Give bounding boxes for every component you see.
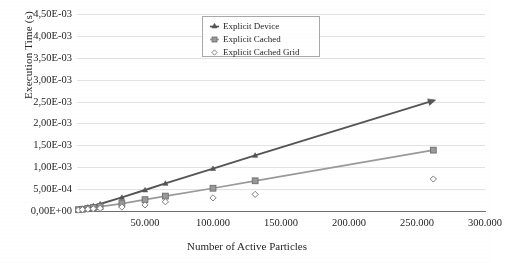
legend-item: Explicit Device bbox=[208, 20, 315, 32]
square-marker-icon bbox=[208, 34, 221, 45]
legend-label: Explicit Cached bbox=[223, 34, 281, 45]
diamond-marker-icon bbox=[208, 47, 221, 58]
chart-legend: Explicit DeviceExplicit CachedExplicit C… bbox=[202, 16, 320, 57]
legend-label: Explicit Device bbox=[223, 21, 279, 32]
arrow-head-icon bbox=[428, 99, 436, 106]
diamond-marker-icon bbox=[162, 199, 168, 205]
triangle-marker-icon bbox=[208, 21, 221, 32]
square-marker-icon bbox=[210, 185, 216, 191]
legend-label: Explicit Cached Grid bbox=[223, 47, 299, 58]
diamond-marker-icon bbox=[210, 195, 216, 201]
diamond-marker-icon bbox=[252, 191, 258, 197]
square-marker-icon bbox=[252, 178, 258, 184]
legend-item: Explicit Cached bbox=[208, 33, 315, 45]
square-marker-icon bbox=[430, 147, 436, 153]
legend-item: Explicit Cached Grid bbox=[208, 46, 315, 58]
diamond-marker-icon bbox=[430, 176, 436, 182]
